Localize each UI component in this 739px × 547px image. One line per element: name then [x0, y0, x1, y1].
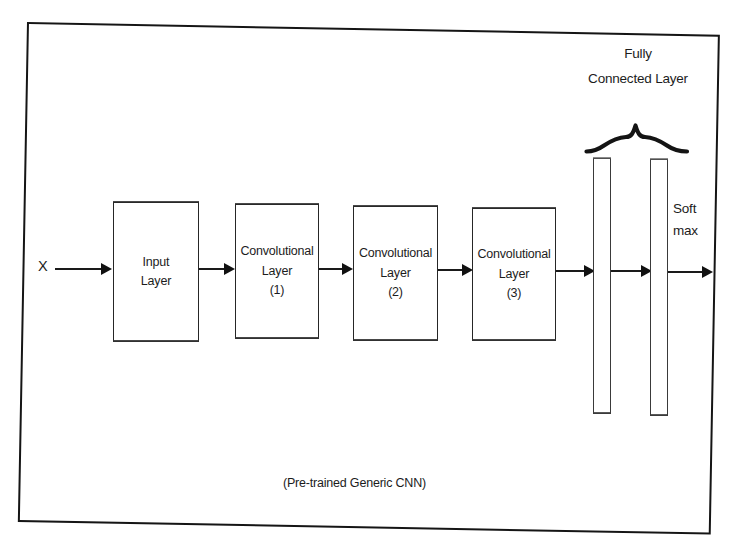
- fully-connected-bar-2[interactable]: [650, 159, 668, 416]
- block-conv2-line-1: Convolutional: [359, 244, 432, 263]
- figure-canvas: X Input Layer Convolutional Layer (1) Co…: [0, 0, 739, 547]
- arrow-conv1-to-conv2: [319, 262, 354, 276]
- block-convolutional-layer-1[interactable]: Convolutional Layer (1): [235, 204, 319, 339]
- softmax-line-1: Soft: [673, 198, 698, 220]
- block-conv1-line-1: Convolutional: [240, 242, 313, 261]
- arrow-conv3-to-fc1: [556, 264, 596, 278]
- arrow-fc2-to-output: [668, 265, 714, 279]
- block-convolutional-layer-3[interactable]: Convolutional Layer (3): [472, 208, 556, 341]
- input-signal-label: X: [38, 255, 47, 278]
- arrow-fc1-to-fc2: [611, 264, 653, 278]
- fully-connected-bar-1[interactable]: [593, 158, 611, 414]
- block-convolutional-layer-2[interactable]: Convolutional Layer (2): [353, 206, 438, 341]
- block-conv2-line-3: (2): [388, 283, 403, 302]
- block-input-layer[interactable]: Input Layer: [113, 202, 199, 342]
- fully-connected-layer-title: Fully Connected Layer: [578, 42, 698, 92]
- block-conv1-line-2: Layer: [262, 262, 292, 281]
- block-conv2-line-2: Layer: [380, 264, 410, 283]
- softmax-output-label: Soft max: [673, 198, 698, 241]
- block-input-layer-line-1: Input: [143, 253, 170, 272]
- fc-title-line-1: Fully: [578, 42, 698, 67]
- arrow-x-to-input-layer: [55, 262, 112, 276]
- block-input-layer-line-2: Layer: [141, 272, 171, 291]
- softmax-line-2: max: [673, 220, 698, 242]
- curly-brace-icon: [583, 118, 691, 156]
- block-conv3-line-1: Convolutional: [477, 245, 550, 264]
- block-conv1-line-3: (1): [270, 281, 285, 300]
- block-conv3-line-3: (3): [507, 284, 522, 303]
- block-conv3-line-2: Layer: [499, 265, 529, 284]
- figure-caption: (Pre-trained Generic CNN): [283, 473, 426, 493]
- arrow-input-layer-to-conv1: [199, 262, 236, 276]
- arrow-conv2-to-conv3: [438, 263, 474, 277]
- fc-title-line-2: Connected Layer: [578, 67, 698, 92]
